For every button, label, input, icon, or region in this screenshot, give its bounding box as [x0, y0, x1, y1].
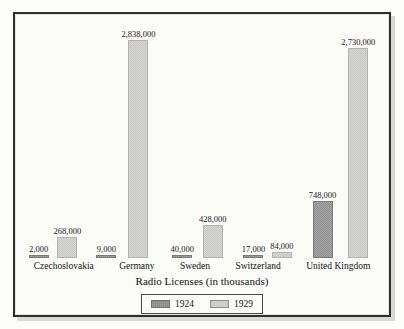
bar-wrap-sweden-1924: 40,000 [171, 20, 194, 258]
bar-wrap-united-kingdom-1929: 2,730,000 [341, 20, 375, 258]
bar-wrap-united-kingdom-1924: 748,000 [309, 20, 337, 258]
bar-germany-1924[interactable] [96, 255, 116, 258]
legend-swatch-1929 [210, 300, 229, 308]
bar-germany-1929[interactable] [128, 40, 148, 258]
chart-frame: 2,000 268,000 9,000 2,838,000 [13, 12, 391, 317]
bar-sweden-1929[interactable] [203, 225, 223, 258]
legend-label-1929: 1929 [234, 299, 253, 309]
bar-united-kingdom-1929[interactable] [348, 48, 368, 258]
bar-value-germany-1929: 2,838,000 [121, 29, 155, 39]
legend-label-1924: 1924 [175, 299, 194, 309]
bar-wrap-czechoslovakia-1924: 2,000 [29, 20, 49, 258]
plot-area: 2,000 268,000 9,000 2,838,000 [21, 20, 383, 258]
bar-group-switzerland: 17,000 84,000 [242, 20, 294, 258]
bar-wrap-switzerland-1929: 84,000 [270, 20, 293, 258]
bar-groups: 2,000 268,000 9,000 2,838,000 [21, 20, 383, 258]
bar-value-sweden-1929: 428,000 [199, 214, 227, 224]
bar-value-united-kingdom-1924: 748,000 [309, 190, 337, 200]
bar-value-czechoslovakia-1929: 268,000 [54, 226, 82, 236]
x-tick-label-czechoslovakia: Czechoslovakia [34, 260, 94, 272]
x-axis-title: Radio Licenses (in thousands) [15, 274, 389, 288]
x-tick-label-sweden: Sweden [180, 260, 210, 272]
bar-group-czechoslovakia: 2,000 268,000 [29, 20, 82, 258]
legend-swatch-1924 [151, 300, 170, 308]
x-tick-label-germany: Germany [119, 260, 154, 272]
bar-sweden-1924[interactable] [172, 255, 192, 258]
bar-group-sweden: 40,000 428,000 [171, 20, 227, 258]
legend-item-1929[interactable]: 1929 [210, 299, 253, 309]
bar-value-switzerland-1924: 17,000 [242, 244, 265, 254]
bar-wrap-germany-1929: 2,838,000 [121, 20, 155, 258]
x-axis-tick-labels: Czechoslovakia Germany Sweden Switzerlan… [21, 260, 383, 273]
bar-wrap-switzerland-1924: 17,000 [242, 20, 265, 258]
bar-switzerland-1929[interactable] [272, 252, 292, 258]
bar-wrap-sweden-1929: 428,000 [199, 20, 227, 258]
bar-united-kingdom-1924[interactable] [313, 201, 333, 258]
bar-value-sweden-1924: 40,000 [171, 244, 194, 254]
bar-value-germany-1924: 9,000 [97, 244, 116, 254]
bar-czechoslovakia-1929[interactable] [57, 237, 77, 258]
bar-switzerland-1924[interactable] [243, 255, 263, 258]
bar-value-czechoslovakia-1924: 2,000 [29, 244, 48, 254]
x-tick-label-switzerland: Switzerland [235, 260, 280, 272]
bar-czechoslovakia-1924[interactable] [29, 255, 49, 258]
bar-wrap-germany-1924: 9,000 [96, 20, 116, 258]
legend-item-1924[interactable]: 1924 [151, 299, 194, 309]
bar-value-united-kingdom-1929: 2,730,000 [341, 37, 375, 47]
x-tick-label-united-kingdom: United Kingdom [306, 260, 370, 272]
bar-wrap-czechoslovakia-1929: 268,000 [54, 20, 82, 258]
chart-figure: 2,000 268,000 9,000 2,838,000 [0, 0, 404, 329]
bar-group-united-kingdom: 748,000 2,730,000 [309, 20, 376, 258]
bar-value-switzerland-1929: 84,000 [270, 241, 293, 251]
chart-legend: 1924 1929 [141, 294, 263, 314]
bar-group-germany: 9,000 2,838,000 [96, 20, 155, 258]
